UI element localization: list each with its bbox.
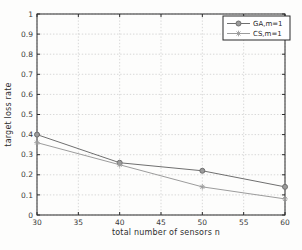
y-tick-label: 0.5: [21, 110, 33, 119]
x-tick-label: 45: [156, 218, 166, 227]
y-tick-label: 0.1: [21, 191, 33, 200]
y-tick-label: 0.4: [21, 130, 33, 139]
line-chart-figure: 3035404550556000.10.20.30.40.50.60.70.80…: [0, 0, 302, 250]
y-axis-label: target loss rate: [4, 60, 13, 170]
y-tick-label: 0.8: [21, 50, 33, 59]
chart-canvas: 3035404550556000.10.20.30.40.50.60.70.80…: [0, 0, 302, 250]
x-tick-label: 35: [74, 218, 84, 227]
x-tick-label: 40: [115, 218, 125, 227]
data-point-circle: [236, 21, 241, 26]
x-tick-label: 30: [32, 218, 42, 227]
y-tick-label: 0.7: [21, 70, 33, 79]
data-point-circle: [283, 184, 288, 189]
y-tick-label: 0.6: [21, 90, 33, 99]
legend-label: GA,m=1: [253, 20, 283, 28]
data-point-asterisk: [34, 140, 40, 146]
x-tick-label: 50: [198, 218, 208, 227]
legend: GA,m=1CS,m=1: [223, 16, 290, 40]
data-point-asterisk: [236, 31, 242, 37]
data-point-circle: [35, 132, 40, 137]
y-tick-label: 0: [28, 211, 33, 220]
y-tick-label: 0.9: [21, 30, 33, 39]
y-tick-label: 0.2: [21, 170, 33, 179]
data-point-circle: [200, 168, 205, 173]
x-axis-label: total number of sensors n: [0, 228, 302, 237]
legend-label: CS,m=1: [253, 30, 282, 38]
data-point-asterisk: [117, 162, 123, 168]
y-tick-label: 0.3: [21, 150, 33, 159]
x-tick-label: 60: [280, 218, 290, 227]
y-tick-label: 1: [28, 10, 33, 19]
data-point-asterisk: [200, 184, 206, 190]
data-point-asterisk: [282, 196, 288, 202]
x-tick-label: 55: [239, 218, 249, 227]
